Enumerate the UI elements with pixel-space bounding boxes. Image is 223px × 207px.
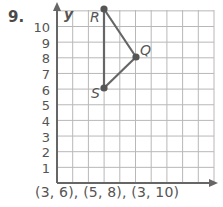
point-r (100, 5, 107, 12)
y-tick-label: 2 (42, 145, 50, 160)
y-tick-label: 4 (42, 114, 50, 129)
triangle-rqs: RQS (90, 5, 151, 101)
y-tick-label: 1 (42, 161, 50, 176)
point-q (132, 53, 139, 60)
y-tick-labels: 10987654321 (33, 20, 50, 176)
y-tick-label: 7 (42, 67, 50, 82)
coordinate-grid: 10987654321 y RQS (0, 0, 223, 207)
grid-lines (57, 10, 214, 183)
y-tick-label: 9 (42, 36, 50, 51)
y-tick-label: 6 (42, 83, 50, 98)
answer-text: (3, 6), (5, 8), (3, 10) (35, 184, 179, 200)
point-s (100, 84, 107, 91)
point-label-q: Q (140, 42, 151, 58)
y-tick-label: 5 (42, 98, 50, 113)
point-label-s: S (91, 85, 100, 101)
point-label-r: R (90, 9, 100, 25)
y-axis-arrow-icon (53, 2, 61, 11)
y-tick-label: 10 (33, 20, 50, 35)
y-tick-label: 3 (42, 130, 50, 145)
y-tick-label: 8 (42, 51, 50, 66)
y-axis-label: y (64, 6, 74, 22)
